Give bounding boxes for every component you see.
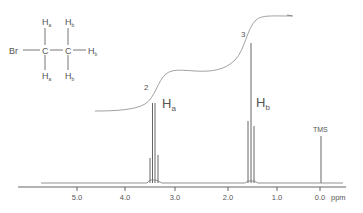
- peak-label-hb: Hb: [256, 95, 270, 112]
- tick-label-0: 0.0: [315, 193, 325, 202]
- integral-label-3: 3: [241, 30, 246, 39]
- structure-labels: Br C C Ha Ha Hb Hb Hb: [9, 17, 98, 82]
- x-axis-unit: ppm: [331, 193, 346, 202]
- atom-br: Br: [9, 46, 18, 56]
- peak-label-tms: TMS: [313, 126, 328, 133]
- atom-hb-right: Hb: [88, 46, 98, 57]
- tick-label-2: 2.0: [223, 193, 233, 202]
- peaks: [150, 43, 321, 183]
- atom-hb-top: Hb: [65, 17, 75, 28]
- atom-c1: C: [42, 46, 49, 56]
- integral-label-2: 2: [144, 83, 149, 92]
- tick-label-3: 3.0: [170, 193, 180, 202]
- tick-label-5: 5.0: [72, 193, 82, 202]
- atom-ha-top: Ha: [42, 17, 52, 28]
- atom-ha-bottom: Ha: [42, 71, 52, 82]
- peak-label-ha: Ha: [162, 96, 176, 113]
- atom-hb-bottom: Hb: [65, 71, 75, 82]
- tick-label-4: 4.0: [120, 193, 130, 202]
- atom-c2: C: [65, 46, 72, 56]
- spectrum-baseline: [41, 180, 343, 183]
- tick-label-1: 1.0: [272, 193, 282, 202]
- x-tick-labels: 5.0 4.0 3.0 2.0 1.0 0.0: [72, 193, 325, 202]
- nmr-spectrum-chart: Br C C Ha Ha Hb Hb Hb 2 3 Ha Hb TMS: [0, 0, 363, 213]
- x-axis: [18, 187, 346, 191]
- structural-formula: [23, 28, 86, 70]
